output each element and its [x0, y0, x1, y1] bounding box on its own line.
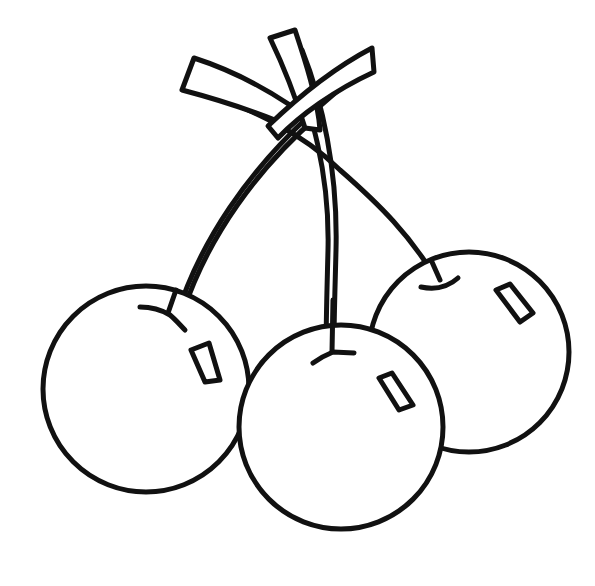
stem-left-inner	[183, 116, 318, 312]
cherries-drawing	[0, 0, 595, 586]
stem-end-left	[182, 58, 290, 122]
cherry-left	[43, 286, 249, 492]
cherry-middle-body	[239, 325, 443, 529]
cherry-left-body	[43, 286, 249, 492]
cherry-middle-stem-tip	[332, 300, 333, 352]
cherries-illustration	[0, 0, 595, 586]
